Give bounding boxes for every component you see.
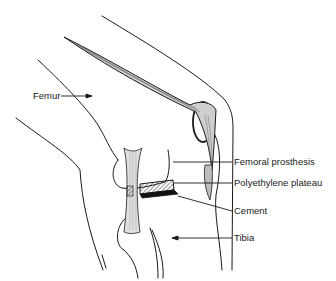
- label-polyethylene-plateau: Polyethylene plateau: [234, 178, 322, 188]
- knee-prosthesis-diagram: Femur Femoral prosthesis Polyethylene pl…: [0, 0, 336, 281]
- plateau-left-tab: [127, 186, 133, 196]
- femur-posterior-line: [16, 118, 103, 270]
- label-tibia: Tibia: [234, 233, 254, 243]
- label-femur: Femur: [33, 91, 60, 101]
- label-cement: Cement: [234, 206, 267, 216]
- label-femoral-prosthesis: Femoral prosthesis: [234, 157, 315, 167]
- fibula-line: [102, 255, 106, 268]
- femur-arrowhead: [86, 94, 92, 98]
- femur-anterior-outline: [38, 60, 118, 160]
- anterior-knee-contour: [215, 135, 222, 270]
- patellar-tendon: [204, 165, 212, 200]
- tibia-arrowhead: [172, 236, 178, 240]
- diagram-artwork: [0, 0, 336, 281]
- cement-leader: [178, 196, 232, 211]
